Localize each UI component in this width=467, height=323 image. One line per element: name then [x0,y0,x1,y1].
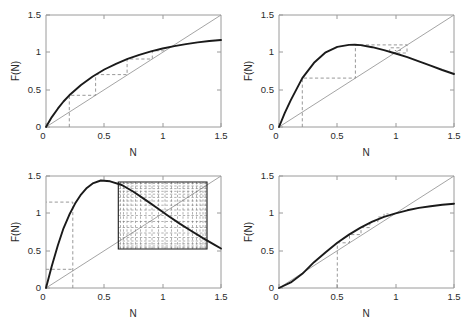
xtick-1: 1 [160,291,165,302]
panel-bottom-left: 0 0.5 1 1.5 0 0.5 1 1.5 N F(N) [0,161,234,323]
xtick-15: 1.5 [214,291,227,302]
identity-line [46,15,221,127]
cobweb-chaotic-region [118,182,207,249]
xtick-0: 0 [40,291,45,302]
cobweb-path [337,214,388,288]
ytick-05: 0.5 [261,84,274,95]
xaxis-title: N [129,147,136,158]
plot-top-right: 0 0.5 1 1.5 0 0.5 1 1.5 N F(N) [233,0,467,162]
ytick-05: 0.5 [261,245,274,256]
curve-fn [279,204,454,288]
ytick-15: 1.5 [261,9,274,20]
ytick-1: 1 [36,207,41,218]
xtick-0: 0 [273,130,278,141]
ytick-0: 0 [269,282,274,293]
ytick-1: 1 [269,46,274,57]
ytick-1: 1 [36,46,41,57]
panel-top-left: 0 0.5 1 1.5 0 0.5 1 1.5 N F(N) [0,0,234,162]
ytick-15: 1.5 [28,170,41,181]
xtick-1: 1 [393,130,398,141]
xtick-0: 0 [40,130,45,141]
xtick-15: 1.5 [447,130,460,141]
curve-fn [46,40,221,127]
xtick-1: 1 [393,291,398,302]
ytick-05: 0.5 [28,84,41,95]
xtick-15: 1.5 [447,291,460,302]
plot-bottom-right: 0 0.5 1 1.5 0 0.5 1 1.5 N F(N) [233,161,467,323]
curve-fn [279,45,454,127]
curve-fn [46,181,221,289]
ytick-15: 1.5 [28,9,41,20]
yaxis-title: F(N) [243,222,254,242]
xtick-15: 1.5 [214,130,227,141]
xaxis-title: N [129,308,136,319]
panel-bottom-right: 0 0.5 1 1.5 0 0.5 1 1.5 N F(N) [233,161,467,323]
ytick-0: 0 [36,282,41,293]
yaxis-title: F(N) [10,222,21,242]
ytick-0: 0 [36,121,41,132]
plot-top-left: 0 0.5 1 1.5 0 0.5 1 1.5 N F(N) [0,0,234,162]
ytick-15: 1.5 [261,170,274,181]
identity-line [279,15,454,127]
ytick-1: 1 [269,207,274,218]
ytick-05: 0.5 [28,245,41,256]
yaxis-title: F(N) [243,61,254,81]
xtick-0: 0 [273,291,278,302]
xtick-05: 0.5 [330,291,343,302]
cobweb-path [69,48,169,127]
xaxis-title: N [362,147,369,158]
xtick-05: 0.5 [97,130,110,141]
xtick-05: 0.5 [97,291,110,302]
four-panel-cobweb-figure: 0 0.5 1 1.5 0 0.5 1 1.5 N F(N) [0,0,467,323]
plot-bottom-left: 0 0.5 1 1.5 0 0.5 1 1.5 N F(N) [0,161,234,323]
xtick-05: 0.5 [330,130,343,141]
panel-top-right: 0 0.5 1 1.5 0 0.5 1 1.5 N F(N) [233,0,467,162]
yaxis-title: F(N) [10,61,21,81]
xtick-1: 1 [160,130,165,141]
xaxis-title: N [362,308,369,319]
cobweb-path [302,45,407,127]
ytick-0: 0 [269,121,274,132]
